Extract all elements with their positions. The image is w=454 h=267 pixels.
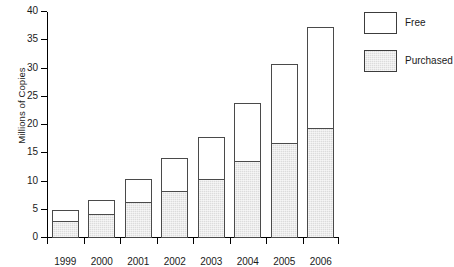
x-axis-label: 2005: [266, 256, 303, 267]
y-tick: 30: [41, 68, 47, 69]
x-axis-label: 2006: [303, 256, 340, 267]
y-axis-line: [47, 12, 48, 238]
x-tick: [120, 238, 121, 244]
x-tick: [303, 238, 304, 244]
y-tick-label: 20: [27, 118, 38, 129]
y-tick-label: 35: [27, 33, 38, 44]
x-axis-label: 2004: [230, 256, 267, 267]
y-tick: 15: [41, 152, 47, 153]
bar-segment-purchased: [88, 214, 115, 238]
y-axis-title: Millions of Copies: [16, 41, 27, 171]
bar-group: [52, 210, 79, 238]
x-axis-label: 2003: [193, 256, 230, 267]
y-tick: 40: [41, 11, 47, 12]
bar-segment-free: [271, 64, 298, 144]
x-axis-label: 1999: [47, 256, 84, 267]
bar-segment-free: [307, 27, 334, 129]
legend-swatch-free: [364, 12, 397, 34]
bar-group: [198, 137, 225, 238]
bar-segment-free: [52, 210, 79, 222]
plot-area: 0510152025303540 19992000200120022003200…: [47, 12, 339, 238]
bar-segment-purchased: [271, 143, 298, 238]
y-tick-label: 25: [27, 90, 38, 101]
bar-segment-purchased: [161, 191, 188, 238]
bar-segment-purchased: [307, 128, 334, 238]
y-tick: 35: [41, 39, 47, 40]
x-axis-label: 2000: [84, 256, 121, 267]
bar-segment-purchased: [125, 202, 152, 238]
bar-segment-free: [161, 158, 188, 191]
bar-segment-free: [198, 137, 225, 180]
y-tick: 20: [41, 124, 47, 125]
x-tick: [338, 238, 339, 244]
x-tick: [84, 238, 85, 244]
x-tick: [266, 238, 267, 244]
bar-segment-purchased: [234, 161, 261, 238]
y-tick-label: 40: [27, 5, 38, 16]
y-tick-label: 0: [32, 231, 38, 242]
x-tick: [47, 238, 48, 244]
bar-group: [271, 64, 298, 238]
y-tick-label: 15: [27, 146, 38, 157]
bar-group: [88, 200, 115, 238]
y-tick-label: 30: [27, 62, 38, 73]
x-tick: [230, 238, 231, 244]
bar-segment-purchased: [198, 179, 225, 238]
y-tick: 25: [41, 96, 47, 97]
bar-group: [161, 158, 188, 238]
x-axis-label: 2001: [120, 256, 157, 267]
legend-swatch-purchased: [364, 50, 397, 72]
x-tick: [193, 238, 194, 244]
bar-group: [125, 179, 152, 238]
bar-segment-free: [234, 103, 261, 162]
legend-label: Purchased: [405, 55, 453, 66]
bar-segment-free: [125, 179, 152, 203]
y-tick-label: 5: [32, 203, 38, 214]
y-tick: 5: [41, 209, 47, 210]
bar-group: [307, 27, 334, 238]
bar-segment-purchased: [52, 221, 79, 238]
legend-label: Free: [405, 17, 426, 28]
stacked-bar-chart: Millions of Copies 0510152025303540 1999…: [0, 0, 454, 267]
y-tick-label: 10: [27, 175, 38, 186]
bar-group: [234, 103, 261, 238]
y-tick: 10: [41, 181, 47, 182]
bar-segment-free: [88, 200, 115, 216]
x-tick: [157, 238, 158, 244]
x-axis-label: 2002: [157, 256, 194, 267]
